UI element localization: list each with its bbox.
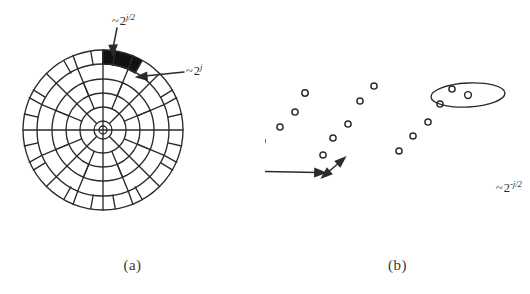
dot-lattice-group [265,81,506,177]
lattice-dot-in-ellipse [465,92,472,99]
tilde-glyph-a-inner: ~ [186,64,193,78]
curvelet-support-ellipse [430,81,505,109]
wedge-width-arrow [137,72,184,80]
lattice-dot [396,148,402,154]
dot-arc-1 [265,90,308,173]
polar-tiling-svg [0,0,265,294]
lattice-dot [320,152,326,158]
tilde-glyph-a-outer: ~ [112,14,119,28]
lattice-dot [302,90,308,96]
caption-panel-b: (b) [265,257,530,274]
lattice-dot [357,98,363,104]
long-spacing-label: ~2-j/2 [496,181,522,196]
dot-arc-2 [320,83,377,158]
panel-b: ~2-j/2 ~2-j (b) [265,0,530,294]
lattice-dot [371,83,377,89]
panel-a: ~2j/2 ~2j (a) [0,0,265,294]
exponent-glyph-b-long: -j/2 [510,179,522,189]
figure-root: ~2j/2 ~2j (a) [0,0,530,294]
exponent-glyph-a-outer: j/2 [126,12,135,22]
lattice-dot [330,135,336,141]
lattice-dot [345,121,351,127]
caption-panel-a: (a) [0,257,265,274]
exponent-glyph-a-inner: j [200,62,202,72]
lattice-dot [425,119,431,125]
lattice-dot [410,133,416,139]
wedge-length-label: ~2j/2 [112,14,135,29]
polar-tiling-group [23,28,184,210]
tilde-glyph-b-long: ~ [496,181,503,195]
lattice-dot [277,124,283,130]
dot-lattice-svg [265,0,530,294]
dot-arc-3 [396,86,455,154]
lattice-dot [449,86,455,92]
long-spacing-arrow [265,167,325,177]
wedge-width-label: ~2j [186,64,202,79]
short-spacing-arrow [322,158,345,178]
lattice-dot [292,109,298,115]
